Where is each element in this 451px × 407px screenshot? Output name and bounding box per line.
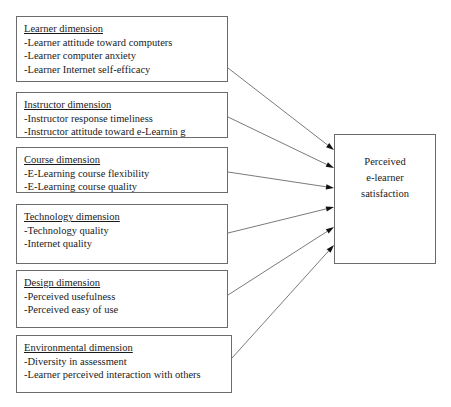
- dimension-box-instructor: Instructor dimension -Instructor respons…: [16, 92, 228, 138]
- dimension-item: -Learner perceived interaction with othe…: [24, 368, 231, 382]
- dimension-heading: Technology dimension: [24, 210, 227, 224]
- arrow-head-icon: [326, 162, 334, 168]
- dimension-item: -Learner Internet self-efficacy: [24, 63, 227, 77]
- dimension-item: -Instructor response timeliness: [24, 112, 227, 126]
- dimension-item: -Technology quality: [24, 224, 227, 238]
- dimension-item: -E-Learning course flexibility: [24, 167, 227, 181]
- conceptual-model-diagram: Learner dimension -Learner attitude towa…: [0, 0, 451, 407]
- dimension-box-course: Course dimension -E-Learning course flex…: [16, 147, 228, 193]
- dimension-item: -Learner attitude toward computers: [24, 36, 227, 50]
- dimension-heading: Environmental dimension: [24, 341, 231, 355]
- arrow-line: [228, 231, 327, 295]
- arrow-head-icon: [326, 227, 334, 234]
- arrow-line: [228, 209, 326, 233]
- dimension-heading: Design dimension: [24, 276, 227, 290]
- dimension-box-learner: Learner dimension -Learner attitude towa…: [16, 16, 228, 82]
- arrow-line: [228, 172, 326, 187]
- outcome-box-perceived-satisfaction: Perceived e-learner satisfaction: [334, 134, 436, 264]
- arrow-head-icon: [326, 184, 334, 189]
- dimension-item: -Internet quality: [24, 237, 227, 251]
- dimension-heading: Learner dimension: [24, 22, 227, 36]
- arrow-head-icon: [327, 245, 334, 253]
- dimension-item: -Perceived usefulness: [24, 290, 227, 304]
- dimension-item: -Diversity in assessment: [24, 355, 231, 369]
- dimension-item: -Perceived easy of use: [24, 303, 227, 317]
- dimension-item: -Learner computer anxiety: [24, 49, 227, 63]
- outcome-line: Perceived: [364, 154, 405, 170]
- dimension-item: -E-Learning course quality: [24, 180, 227, 194]
- outcome-line: satisfaction: [361, 186, 409, 202]
- outcome-line: e-learner: [366, 170, 403, 186]
- arrow-line: [232, 251, 329, 358]
- arrow-head-icon: [326, 143, 334, 150]
- dimension-box-design: Design dimension -Perceived usefulness -…: [16, 270, 228, 328]
- dimension-box-environmental: Environmental dimension -Diversity in as…: [16, 335, 232, 393]
- dimension-item: -Instructor attitude toward e-Learnin g: [24, 125, 227, 139]
- arrow-head-icon: [326, 206, 334, 211]
- dimension-heading: Instructor dimension: [24, 98, 227, 112]
- dimension-heading: Course dimension: [24, 153, 227, 167]
- arrow-line: [228, 68, 328, 145]
- dimension-box-technology: Technology dimension -Technology quality…: [16, 204, 228, 264]
- arrow-line: [228, 117, 327, 165]
